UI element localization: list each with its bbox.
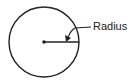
radius-label: Radius: [93, 20, 127, 33]
arrowhead-icon: [65, 35, 71, 42]
leader-line: [68, 27, 91, 38]
circle-diagram: [0, 0, 136, 82]
